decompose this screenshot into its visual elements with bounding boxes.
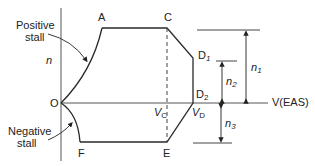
point-d1-label: D1 [198, 50, 210, 63]
n3-label: n3 [225, 118, 236, 131]
point-d2-label: D2 [196, 89, 208, 102]
negative-stall-label-1: Negative [8, 126, 51, 137]
vd-label: VD [192, 107, 205, 120]
point-e-label: E [163, 148, 170, 159]
n-axis-label: n [46, 55, 52, 66]
point-f-label: F [78, 148, 85, 159]
vc-label: VC [154, 107, 167, 120]
n2-label: n2 [226, 76, 237, 89]
negative-stall-curve [61, 103, 80, 142]
n1-label: n1 [251, 62, 262, 75]
negative-stall-arrow [48, 124, 71, 140]
point-c-label: C [164, 12, 172, 23]
positive-stall-label-1: Positive [16, 20, 55, 31]
negative-stall-label-2: stall [17, 138, 37, 149]
positive-stall-curve [61, 28, 102, 103]
point-a-label: A [98, 12, 105, 23]
v-axis-label: V(EAS) [272, 97, 309, 108]
positive-stall-label-2: stall [25, 32, 45, 43]
origin-label: O [50, 98, 59, 109]
positive-stall-arrow [48, 34, 86, 60]
